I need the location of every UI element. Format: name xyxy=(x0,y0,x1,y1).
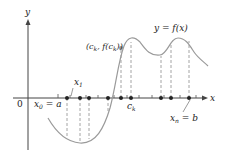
origin-label: 0 xyxy=(17,99,23,109)
dashed-lines xyxy=(67,41,189,141)
x1-label: x1 xyxy=(74,77,83,88)
x-axis-label: x xyxy=(210,93,215,103)
curve-label: y = f(x) xyxy=(153,23,188,33)
curve-f xyxy=(48,38,208,143)
y-axis-arrow-icon xyxy=(26,19,31,25)
y-axis xyxy=(26,19,31,150)
x1-leader xyxy=(71,88,73,96)
xn-equals-b-label: xn = b xyxy=(170,113,198,124)
y-axis-label: y xyxy=(24,7,31,17)
ck-label: ck xyxy=(127,101,136,112)
riemann-diagram: y x 0 x0 = a x1 ck xn = b (ck, f(ck)) y … xyxy=(0,0,227,157)
x0-equals-a-label: x0 = a xyxy=(34,99,62,110)
x-axis-arrow-icon xyxy=(202,96,208,101)
xn-leader xyxy=(183,100,190,112)
point-label: (ck, f(ck)) xyxy=(86,42,123,52)
